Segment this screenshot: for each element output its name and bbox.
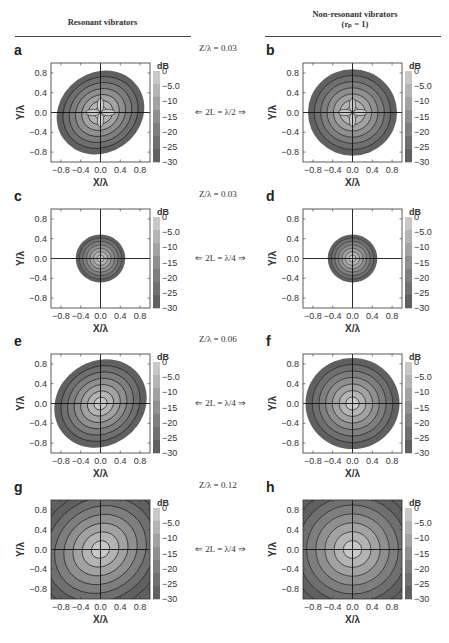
colorbar-tick-label: 0	[414, 357, 419, 367]
right-header-rule	[265, 36, 441, 37]
colorbar-segment	[153, 97, 160, 110]
y-tick-label: 0.8	[286, 505, 299, 515]
x-tick-label: 0.4	[114, 456, 127, 466]
colorbar-tick-label: −10	[414, 533, 429, 543]
y-tick-label: −0.4	[29, 273, 47, 283]
x-tick-label: −0.4	[324, 165, 342, 175]
colorbar-tick-label: −15	[414, 403, 429, 413]
x-tick-label: 0.0	[94, 602, 107, 612]
x-tick-label: −0.4	[324, 456, 342, 466]
colorbar-tick-label: −25	[162, 579, 177, 589]
right-header-line1: Non-resonant vibrators	[265, 9, 445, 19]
y-tick-label: 0.0	[34, 254, 47, 264]
colorbar-tick-label: −20	[162, 273, 177, 283]
y-tick-label: −0.8	[281, 584, 299, 594]
colorbar-tick-label: −15	[162, 258, 177, 268]
colorbar-tick-label: 0	[162, 503, 167, 513]
right-header-line2: (rₚ = 1)	[265, 19, 445, 29]
colorbar-tick-label: −20	[414, 127, 429, 137]
colorbar-segment	[153, 217, 160, 230]
y-tick-label: −0.8	[29, 147, 47, 157]
y-tick-label: 0.0	[34, 399, 47, 409]
contour-field	[37, 341, 164, 465]
colorbar-segment	[405, 414, 412, 427]
y-tick-label: −0.4	[281, 127, 299, 137]
colorbar-tick-label: −30	[162, 594, 177, 604]
colorbar-segment	[153, 110, 160, 123]
contour-plot-c: −0.80.8−0.40.40.00.00.4−0.40.8−0.8X/λY/λ…	[11, 197, 176, 342]
colorbar-tick-label: −10	[414, 96, 429, 106]
x-tick-label: 0.0	[94, 165, 107, 175]
z-ratio-label: Z/λ = 0.06	[199, 334, 237, 344]
x-tick-label: 0.4	[366, 311, 379, 321]
y-tick-label: 0.8	[34, 505, 47, 515]
x-tick-label: 0.4	[114, 602, 127, 612]
colorbar-segment	[405, 375, 412, 388]
x-tick-label: 0.0	[94, 311, 107, 321]
colorbar-tick-label: −10	[162, 533, 177, 543]
y-tick-label: 0.4	[286, 379, 299, 389]
x-tick-label: −0.4	[324, 602, 342, 612]
colorbar-tick-label: −30	[414, 448, 429, 458]
colorbar-segment	[153, 375, 160, 388]
colorbar-tick-label: −25	[414, 579, 429, 589]
panel-letter-e: e	[14, 333, 22, 349]
colorbar-segment	[405, 427, 412, 440]
panel-letter-h: h	[266, 479, 275, 495]
y-tick-label: 0.4	[286, 234, 299, 244]
y-tick-label: 0.0	[34, 545, 47, 555]
colorbar-tick-label: −15	[414, 112, 429, 122]
x-axis-label: X/λ	[345, 177, 360, 188]
colorbar-tick-label: −5.0	[414, 372, 432, 382]
colorbar-segment	[153, 534, 160, 547]
contour-plot-e: −0.80.8−0.40.40.00.00.4−0.40.8−0.8X/λY/λ…	[11, 342, 176, 487]
x-tick-label: −0.4	[72, 602, 90, 612]
colorbar-segment	[405, 84, 412, 97]
x-tick-label: 0.4	[366, 602, 379, 612]
colorbar-tick-label: 0	[162, 66, 167, 76]
x-tick-label: −0.4	[324, 311, 342, 321]
x-tick-label: 0.8	[386, 165, 399, 175]
colorbar-tick-label: 0	[414, 66, 419, 76]
panel-letter-f: f	[266, 333, 271, 349]
x-tick-label: −0.4	[72, 165, 90, 175]
x-tick-label: −0.4	[72, 311, 90, 321]
length-ratio-label: ⇐ 2L = λ/4 ⇒	[195, 253, 246, 263]
x-tick-label: −0.8	[304, 165, 322, 175]
colorbar-segment	[405, 362, 412, 375]
y-axis-label: Y/λ	[267, 396, 278, 411]
colorbar-segment	[153, 269, 160, 282]
x-tick-label: −0.8	[304, 311, 322, 321]
colorbar-segment	[405, 136, 412, 149]
colorbar-tick-label: 0	[414, 503, 419, 513]
y-tick-label: 0.8	[34, 214, 47, 224]
x-tick-label: −0.8	[52, 602, 70, 612]
colorbar-segment	[153, 362, 160, 375]
colorbar-tick-label: −20	[414, 564, 429, 574]
colorbar-segment	[405, 282, 412, 295]
y-tick-label: −0.8	[29, 293, 47, 303]
x-tick-label: 0.8	[386, 602, 399, 612]
colorbar-tick-label: −10	[162, 387, 177, 397]
contour-field	[303, 63, 402, 162]
colorbar-segment	[153, 440, 160, 453]
y-axis-label: Y/λ	[267, 251, 278, 266]
colorbar-segment	[153, 230, 160, 243]
y-tick-label: 0.0	[286, 108, 299, 118]
colorbar-tick-label: −20	[162, 127, 177, 137]
colorbar-segment	[153, 573, 160, 586]
z-ratio-label: Z/λ = 0.12	[199, 480, 237, 490]
colorbar-segment	[405, 586, 412, 599]
x-tick-label: −0.8	[52, 165, 70, 175]
y-tick-label: 0.0	[286, 399, 299, 409]
y-tick-label: −0.8	[281, 147, 299, 157]
colorbar-tick-label: −20	[414, 418, 429, 428]
colorbar-segment	[153, 547, 160, 560]
y-tick-label: 0.8	[34, 68, 47, 78]
x-axis-label: X/λ	[345, 323, 360, 334]
colorbar-segment	[405, 149, 412, 162]
length-ratio-label: ⇐ 2L = λ/4 ⇒	[195, 544, 246, 554]
colorbar-tick-label: −30	[162, 157, 177, 167]
colorbar-tick-label: −5.0	[414, 227, 432, 237]
panel-letter-b: b	[266, 42, 275, 58]
